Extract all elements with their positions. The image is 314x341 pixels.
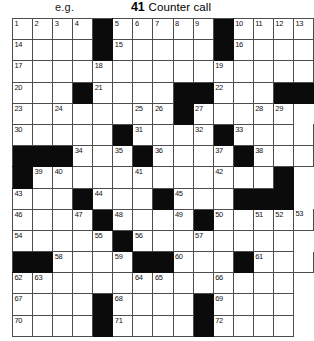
grid-cell[interactable]: 37 [213, 146, 233, 167]
grid-cell[interactable]: 38 [253, 146, 273, 167]
grid-cell[interactable] [73, 273, 93, 294]
grid-cell[interactable] [33, 124, 53, 145]
grid-cell[interactable]: 14 [13, 40, 33, 61]
grid-cell[interactable] [73, 40, 93, 61]
grid-cell[interactable] [173, 167, 193, 188]
grid-cell[interactable]: 7 [153, 19, 173, 40]
grid-cell[interactable] [213, 230, 233, 251]
grid-cell[interactable] [173, 315, 193, 336]
grid-cell[interactable] [113, 188, 133, 209]
grid-cell[interactable] [233, 82, 253, 103]
grid-cell[interactable]: 9 [193, 19, 213, 40]
grid-cell[interactable] [73, 103, 93, 124]
grid-cell[interactable] [153, 315, 173, 336]
grid-cell[interactable]: 44 [93, 188, 113, 209]
grid-cell[interactable] [113, 82, 133, 103]
grid-cell[interactable]: 35 [113, 146, 133, 167]
grid-cell[interactable] [53, 188, 73, 209]
grid-cell[interactable]: 29 [273, 103, 293, 124]
grid-cell[interactable] [33, 188, 53, 209]
grid-cell[interactable]: 63 [33, 273, 53, 294]
grid-cell[interactable] [253, 294, 273, 315]
grid-cell[interactable]: 64 [133, 273, 153, 294]
grid-cell[interactable]: 56 [133, 230, 153, 251]
grid-cell[interactable] [273, 294, 293, 315]
grid-cell[interactable] [33, 294, 53, 315]
grid-cell[interactable] [133, 315, 153, 336]
grid-cell[interactable] [253, 82, 273, 103]
grid-cell[interactable]: 24 [53, 103, 73, 124]
grid-cell[interactable]: 28 [253, 103, 273, 124]
grid-cell[interactable] [33, 82, 53, 103]
grid-cell[interactable] [293, 124, 313, 145]
grid-cell[interactable]: 62 [13, 273, 33, 294]
grid-cell[interactable] [153, 167, 173, 188]
grid-cell[interactable] [133, 209, 153, 230]
grid-cell[interactable] [93, 124, 113, 145]
grid-cell[interactable] [133, 82, 153, 103]
grid-cell[interactable] [33, 315, 53, 336]
grid-cell[interactable] [73, 315, 93, 336]
grid-cell[interactable]: 34 [73, 146, 93, 167]
grid-cell[interactable] [113, 273, 133, 294]
grid-cell[interactable] [73, 252, 93, 273]
grid-cell[interactable] [133, 294, 153, 315]
grid-cell[interactable] [293, 40, 313, 61]
grid-cell[interactable] [93, 252, 113, 273]
grid-cell[interactable] [113, 103, 133, 124]
grid-cell[interactable] [133, 40, 153, 61]
grid-cell[interactable] [273, 252, 293, 273]
grid-cell[interactable] [193, 61, 213, 82]
grid-cell[interactable]: 17 [13, 61, 33, 82]
grid-cell[interactable]: 33 [233, 124, 253, 145]
grid-cell[interactable] [293, 146, 313, 167]
grid-cell[interactable] [173, 40, 193, 61]
grid-cell[interactable]: 54 [13, 230, 33, 251]
grid-cell[interactable]: 47 [73, 209, 93, 230]
grid-cell[interactable] [73, 61, 93, 82]
grid-cell[interactable]: 65 [153, 273, 173, 294]
grid-cell[interactable] [273, 146, 293, 167]
grid-cell[interactable]: 20 [13, 82, 33, 103]
grid-cell[interactable]: 55 [93, 230, 113, 251]
grid-cell[interactable] [53, 40, 73, 61]
grid-cell[interactable] [153, 124, 173, 145]
grid-cell[interactable]: 16 [233, 40, 253, 61]
grid-cell[interactable]: 36 [153, 146, 173, 167]
grid-cell[interactable]: 19 [213, 61, 233, 82]
grid-cell[interactable]: 59 [113, 252, 133, 273]
grid-cell[interactable] [273, 315, 293, 336]
grid-cell[interactable] [113, 61, 133, 82]
grid-cell[interactable]: 3 [53, 19, 73, 40]
grid-cell[interactable]: 70 [13, 315, 33, 336]
grid-cell[interactable] [253, 167, 273, 188]
grid-cell[interactable] [73, 167, 93, 188]
grid-cell[interactable]: 68 [113, 294, 133, 315]
grid-cell[interactable]: 5 [113, 19, 133, 40]
grid-cell[interactable]: 42 [213, 167, 233, 188]
grid-cell[interactable] [133, 61, 153, 82]
grid-cell[interactable]: 4 [73, 19, 93, 40]
grid-cell[interactable]: 51 [253, 209, 273, 230]
grid-cell[interactable]: 30 [13, 124, 33, 145]
grid-cell[interactable]: 18 [93, 61, 113, 82]
grid-cell[interactable] [33, 209, 53, 230]
grid-cell[interactable]: 8 [173, 19, 193, 40]
grid-cell[interactable] [193, 167, 213, 188]
grid-cell[interactable]: 71 [113, 315, 133, 336]
grid-cell[interactable] [53, 61, 73, 82]
grid-cell[interactable] [53, 315, 73, 336]
grid-cell[interactable]: 21 [93, 82, 113, 103]
grid-cell[interactable]: 41 [133, 167, 153, 188]
grid-cell[interactable] [273, 124, 293, 145]
grid-cell[interactable]: 32 [193, 124, 213, 145]
grid-cell[interactable]: 13 [293, 19, 313, 40]
grid-cell[interactable] [253, 315, 273, 336]
grid-cell[interactable]: 60 [173, 252, 193, 273]
grid-cell[interactable]: 2 [33, 19, 53, 40]
grid-cell[interactable] [293, 252, 313, 273]
grid-cell[interactable]: 66 [213, 273, 233, 294]
grid-cell[interactable] [193, 40, 213, 61]
grid-cell[interactable] [193, 273, 213, 294]
grid-cell[interactable] [193, 188, 213, 209]
